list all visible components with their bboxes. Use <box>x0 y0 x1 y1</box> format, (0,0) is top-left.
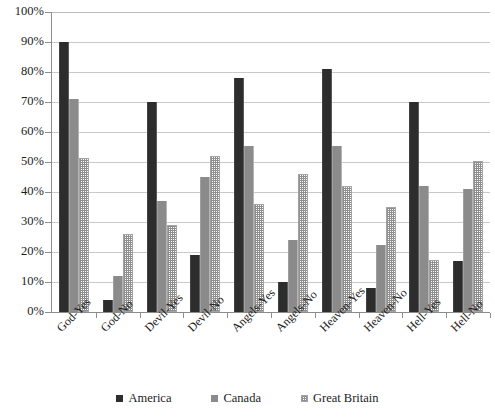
bar-god-yes-great-britain <box>79 158 89 313</box>
bar-devil-no-america <box>190 255 200 312</box>
y-axis-tick-label: 40% <box>0 185 44 197</box>
y-axis-tick-label: 60% <box>0 125 44 137</box>
bar-heaven-yes-america <box>322 69 332 312</box>
y-axis-tick-label: 100% <box>0 5 44 17</box>
y-axis-tick-label: 70% <box>0 95 44 107</box>
bar-hell-yes-america <box>409 102 419 312</box>
bar-god-yes-america <box>59 42 69 312</box>
legend-label: Canada <box>223 392 260 405</box>
x-axis-tick <box>359 313 360 318</box>
bar-heaven-no-america <box>366 288 376 312</box>
bar-god-yes-canada <box>69 99 79 312</box>
x-axis-tick <box>315 313 316 318</box>
y-axis-tick <box>45 192 51 193</box>
y-axis-tick-label: 10% <box>0 275 44 287</box>
y-axis-tick-label: 30% <box>0 215 44 227</box>
x-axis-tick <box>96 313 97 318</box>
bar-heaven-yes-canada <box>332 146 342 313</box>
y-axis-tick <box>45 252 51 253</box>
bar-hell-no-great-britain <box>473 161 483 313</box>
y-axis-tick <box>45 162 51 163</box>
y-axis-tick <box>45 72 51 73</box>
bar-devil-yes-canada <box>157 201 167 312</box>
x-axis-tick <box>271 313 272 318</box>
bar-angels-no-america <box>278 282 288 312</box>
y-axis-tick-label: 90% <box>0 35 44 47</box>
y-axis-tick <box>45 12 51 13</box>
y-axis-tick <box>45 282 51 283</box>
bar-hell-no-canada <box>463 189 473 312</box>
bar-devil-no-canada <box>200 177 210 312</box>
chart-legend: AmericaCanadaGreat Britain <box>0 392 495 405</box>
grid-line-50 <box>52 162 490 163</box>
x-axis-tick <box>183 313 184 318</box>
bar-devil-no-great-britain <box>210 156 220 312</box>
x-axis-tick <box>446 313 447 318</box>
bar-hell-yes-canada <box>419 186 429 312</box>
legend-item-america[interactable]: America <box>116 392 171 405</box>
y-axis-tick <box>45 102 51 103</box>
bar-chart: 0%10%20%30%40%50%60%70%80%90%100% God-Ye… <box>0 0 495 418</box>
bar-angels-yes-canada <box>244 146 254 313</box>
bar-angels-yes-america <box>234 78 244 312</box>
legend-label: Great Britain <box>313 392 379 405</box>
x-axis-tick <box>402 313 403 318</box>
legend-item-great-britain[interactable]: Great Britain <box>301 392 379 405</box>
plot-area <box>52 12 490 312</box>
y-axis-line <box>51 12 52 313</box>
y-axis-tick <box>45 312 51 313</box>
bar-devil-yes-america <box>147 102 157 312</box>
x-axis-tick <box>140 313 141 318</box>
y-axis-tick <box>45 132 51 133</box>
legend-swatch-icon <box>301 395 308 402</box>
grid-line-70 <box>52 102 490 103</box>
legend-swatch-icon <box>211 395 218 402</box>
grid-line-100 <box>52 12 490 13</box>
legend-item-canada[interactable]: Canada <box>211 392 260 405</box>
x-axis-tick <box>227 313 228 318</box>
y-axis-tick <box>45 222 51 223</box>
grid-line-60 <box>52 132 490 133</box>
bar-hell-no-america <box>453 261 463 312</box>
y-axis-tick <box>45 42 51 43</box>
legend-swatch-icon <box>116 395 123 402</box>
grid-line-80 <box>52 72 490 73</box>
y-axis-tick-label: 0% <box>0 305 44 317</box>
x-axis-tick <box>490 313 491 318</box>
y-axis-tick-label: 50% <box>0 155 44 167</box>
y-axis-tick-label: 80% <box>0 65 44 77</box>
legend-label: America <box>128 392 171 405</box>
y-axis-tick-label: 20% <box>0 245 44 257</box>
grid-line-90 <box>52 42 490 43</box>
